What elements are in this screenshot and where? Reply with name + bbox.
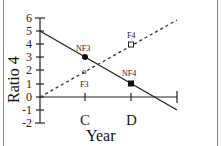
y-tick-4: 4 xyxy=(18,38,32,50)
y-tick-minus-2: -2 xyxy=(18,117,32,129)
nf4-label: NF4 xyxy=(122,70,136,78)
nf-series-line xyxy=(40,31,177,110)
nf4-marker xyxy=(128,81,134,87)
x-tick-c: C xyxy=(80,113,90,128)
f3-marker: o xyxy=(82,67,87,76)
y-tick-5: 5 xyxy=(18,25,32,37)
nf3-label: NF3 xyxy=(76,45,90,53)
y-axis-title: Ratio 4 xyxy=(6,56,22,103)
x-axis-title: Year xyxy=(86,128,115,144)
f4-label: F4 xyxy=(127,32,135,40)
y-tick-minus-1: -1 xyxy=(18,104,32,116)
x-tick-d: D xyxy=(126,113,137,128)
f3-label: F3 xyxy=(80,81,88,89)
y-tick-6: 6 xyxy=(18,12,32,24)
nf3-marker xyxy=(82,54,88,60)
chart-plot xyxy=(0,0,221,146)
f4-marker xyxy=(129,42,134,47)
f-series-line xyxy=(40,20,177,97)
